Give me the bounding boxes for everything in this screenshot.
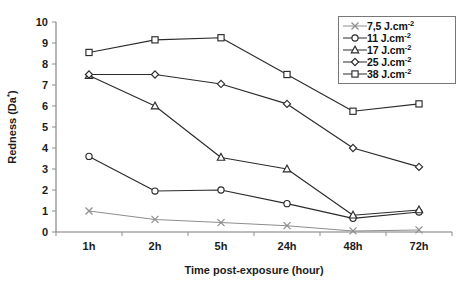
y-tick-label-3: 3 — [42, 163, 48, 175]
legend-marker-diamond — [343, 56, 367, 68]
data-point-square-5h — [218, 35, 224, 41]
data-point-square-72h — [416, 101, 422, 107]
series-line-diamond — [89, 75, 419, 167]
redness-line-chart: 0123456789101h2h5h24h48h72hTime post-exp… — [0, 0, 464, 285]
series-line-circle — [89, 156, 419, 218]
y-tick-label-8: 8 — [42, 58, 48, 70]
legend-item-3[interactable]: 25 J.cm-2 — [343, 56, 449, 68]
y-axis-title: Redness (Da*) — [5, 90, 19, 164]
y-tick-label-9: 9 — [42, 37, 48, 49]
data-point-triangle-5h — [217, 154, 224, 161]
legend-marker-triangle — [343, 44, 367, 56]
y-tick-label-4: 4 — [42, 142, 49, 154]
x-tick-label-72h: 72h — [410, 240, 429, 252]
data-point-circle-1h — [86, 153, 92, 159]
data-point-diamond-72h — [415, 163, 422, 170]
series-line-triangle — [89, 76, 419, 216]
x-tick-label-5h: 5h — [215, 240, 228, 252]
y-tick-label-0: 0 — [42, 226, 48, 238]
series-diamond — [85, 71, 422, 171]
y-tick-label-5: 5 — [42, 121, 48, 133]
legend-item-4[interactable]: 38 J.cm-2 — [343, 68, 449, 80]
legend-item-1[interactable]: 11 J.cm-2 — [343, 32, 449, 44]
legend-glyph-diamond — [351, 58, 358, 65]
legend-glyph-circle — [352, 35, 358, 41]
data-point-circle-2h — [152, 188, 158, 194]
legend-label-4: 38 J.cm-2 — [367, 68, 411, 80]
data-point-triangle-2h — [151, 102, 158, 109]
legend-item-2[interactable]: 17 J.cm-2 — [343, 44, 449, 56]
legend-glyph-square — [352, 71, 358, 77]
series-cross — [86, 208, 423, 235]
legend-item-0[interactable]: 7,5 J.cm-2 — [343, 20, 449, 32]
data-point-circle-24h — [284, 201, 290, 207]
data-point-diamond-48h — [349, 144, 356, 151]
x-tick-label-24h: 24h — [278, 240, 297, 252]
data-point-square-24h — [284, 71, 290, 77]
x-axis-title: Time post-exposure (hour) — [184, 264, 323, 276]
chart-legend: 7,5 J.cm-211 J.cm-217 J.cm-225 J.cm-238 … — [338, 16, 456, 84]
x-tick-label-1h: 1h — [83, 240, 96, 252]
data-point-square-1h — [86, 49, 92, 55]
x-tick-label-2h: 2h — [149, 240, 162, 252]
y-tick-label-10: 10 — [36, 16, 48, 28]
data-point-square-2h — [152, 37, 158, 43]
data-point-diamond-2h — [151, 71, 158, 78]
legend-marker-square — [343, 68, 367, 80]
y-tick-label-7: 7 — [42, 79, 48, 91]
data-point-circle-5h — [218, 187, 224, 193]
legend-marker-cross — [343, 20, 367, 32]
y-tick-label-2: 2 — [42, 184, 48, 196]
y-tick-label-6: 6 — [42, 100, 48, 112]
data-point-diamond-5h — [217, 80, 224, 87]
legend-marker-circle — [343, 32, 367, 44]
x-tick-label-48h: 48h — [344, 240, 363, 252]
data-point-triangle-72h — [415, 206, 422, 213]
y-tick-label-1: 1 — [42, 205, 48, 217]
data-point-diamond-24h — [283, 100, 290, 107]
data-point-square-48h — [350, 108, 356, 114]
